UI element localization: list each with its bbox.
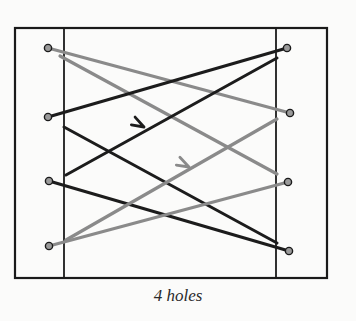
eyelet-hole-r1 — [283, 44, 290, 51]
eyelet-hole-l3 — [45, 177, 52, 184]
eyelet-hole-r2 — [286, 109, 293, 116]
eyelet-hole-l4 — [45, 242, 52, 249]
eyelets — [44, 44, 293, 254]
laces — [48, 48, 290, 251]
eyelet-hole-l2 — [44, 113, 51, 120]
outer-frame — [15, 28, 327, 278]
eyelet-hole-r3 — [284, 178, 291, 185]
lacing-diagram — [0, 0, 356, 321]
gray-lace-l1-r3 — [60, 56, 277, 174]
eyelet-hole-l1 — [44, 44, 51, 51]
eyelet-hole-r4 — [285, 247, 292, 254]
shoe-frame — [15, 28, 327, 278]
black-lace-l2-r4 — [64, 127, 277, 243]
black-direction-arrow — [129, 116, 144, 132]
gray-lace-r2-l4 — [66, 119, 277, 240]
diagram-caption: 4 holes — [0, 286, 356, 306]
